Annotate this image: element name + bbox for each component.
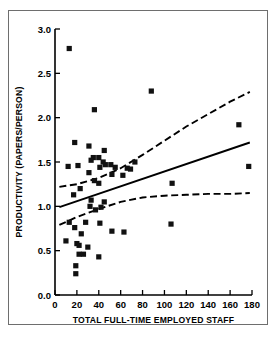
data-point (92, 107, 97, 112)
data-point (73, 263, 78, 268)
data-point (75, 163, 80, 168)
data-point (63, 238, 68, 243)
data-point (72, 140, 77, 145)
data-point (102, 148, 107, 153)
data-point (170, 181, 175, 186)
y-tick-label: 0.5 (38, 245, 52, 256)
data-point (81, 252, 86, 257)
y-tick-label: 2.0 (38, 112, 51, 123)
data-point (109, 172, 114, 177)
data-point (79, 231, 84, 236)
chart-figure: 020406080100120140160180 0.00.51.01.52.0… (0, 0, 278, 341)
data-point (113, 165, 118, 170)
data-point (87, 204, 92, 209)
data-point (96, 155, 101, 160)
data-point (86, 143, 91, 148)
x-tick-label: 40 (93, 299, 104, 310)
data-point (121, 229, 126, 234)
x-tick-label: 120 (178, 299, 194, 310)
data-point (96, 181, 101, 186)
y-tick-label: 1.0 (38, 201, 51, 212)
data-point (120, 173, 125, 178)
data-point (128, 166, 133, 171)
y-axis-title: PRODUCTIVITY (PAPERS/PERSON) (14, 87, 24, 238)
data-point (67, 220, 72, 225)
data-point (98, 205, 103, 210)
data-point (86, 170, 91, 175)
data-point (85, 245, 90, 250)
y-tick-label: 2.5 (38, 68, 52, 79)
data-point (67, 46, 72, 51)
data-point (132, 159, 137, 164)
data-point (96, 254, 101, 259)
data-point (89, 198, 94, 203)
x-tick-label: 0 (52, 299, 57, 310)
x-tick-label: 100 (157, 299, 173, 310)
x-tick-label: 140 (200, 299, 216, 310)
data-point (109, 229, 114, 234)
y-tick-label: 0.0 (38, 290, 51, 301)
data-point (246, 164, 251, 169)
data-point (93, 207, 98, 212)
y-tick-label: 1.5 (38, 157, 52, 168)
data-point (72, 225, 77, 230)
data-point (89, 158, 94, 163)
scatterplot-canvas: 020406080100120140160180 0.00.51.01.52.0… (0, 0, 278, 341)
data-point (168, 221, 173, 226)
y-axis-tick-labels: 0.00.51.01.52.02.53.0 (38, 24, 52, 301)
x-tick-label: 180 (244, 299, 260, 310)
x-tick-label: 20 (72, 299, 83, 310)
data-point (103, 162, 108, 167)
x-tick-label: 60 (115, 299, 126, 310)
data-point (236, 122, 241, 127)
data-point (73, 271, 78, 276)
data-point (78, 186, 83, 191)
data-points (63, 46, 251, 276)
data-point (149, 88, 154, 93)
x-tick-label: 80 (137, 299, 148, 310)
data-point (97, 221, 102, 226)
data-point (71, 192, 76, 197)
y-tick-label: 3.0 (38, 24, 51, 35)
data-point (102, 199, 107, 204)
x-axis-title: TOTAL FULL-TIME EMPLOYED STAFF (73, 315, 234, 325)
data-point (97, 165, 102, 170)
data-point (83, 220, 88, 225)
data-point (66, 164, 71, 169)
x-tick-label: 160 (222, 299, 238, 310)
data-point (76, 243, 81, 248)
x-axis-tick-labels: 020406080100120140160180 (52, 299, 260, 310)
